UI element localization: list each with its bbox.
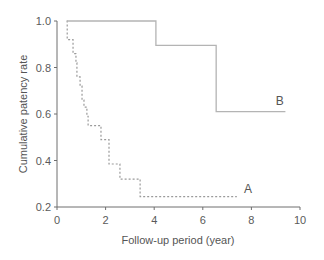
x-tick-label: 8 [248, 214, 254, 226]
x-tick-label: 2 [103, 214, 109, 226]
kaplan-meier-chart: 0.20.40.60.81.0 0246810 Cumulative paten… [0, 0, 324, 260]
x-axis-label: Follow-up period (year) [121, 234, 234, 246]
x-tick-label: 10 [294, 214, 306, 226]
y-axis-label: Cumulative patency rate [17, 55, 29, 174]
series-label-b: B [276, 94, 284, 108]
series-line-a [67, 21, 237, 197]
y-ticks: 0.20.40.60.81.0 [36, 15, 57, 213]
y-tick-label: 0.4 [36, 155, 51, 167]
y-tick-label: 0.6 [36, 108, 51, 120]
series-labels: AB [244, 94, 284, 196]
series-line-b [67, 21, 286, 112]
y-tick-label: 1.0 [36, 15, 51, 27]
y-tick-label: 0.8 [36, 62, 51, 74]
x-tick-label: 0 [54, 214, 60, 226]
x-tick-label: 4 [151, 214, 157, 226]
axes [57, 21, 300, 207]
plot-series [67, 21, 286, 197]
x-ticks: 0246810 [54, 207, 306, 226]
x-tick-label: 6 [200, 214, 206, 226]
series-label-a: A [244, 182, 252, 196]
y-tick-label: 0.2 [36, 201, 51, 213]
